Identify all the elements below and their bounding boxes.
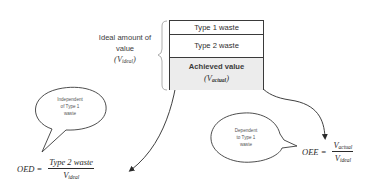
oee-numerator: Vactual (332, 140, 353, 152)
oee-num-sub: actual (339, 144, 353, 150)
oed-numerator: Type 2 waste (48, 157, 94, 169)
actual-symbol-sub: actual (212, 77, 226, 83)
oee-lhs: OEE = (302, 147, 326, 157)
oed-fraction: Type 2 waste Videal (48, 157, 94, 180)
achieved-value-symbol: (Vactual) (170, 73, 263, 86)
ideal-symbol-sub: ideal (122, 58, 133, 64)
oee-formula: OEE = Vactual Videal (302, 140, 353, 163)
row-type1-waste: Type 1 waste (170, 21, 263, 35)
bubble-left-text: Independent of Type 1 waste (44, 96, 96, 117)
row-achieved-value: Achieved value (Vactual) (170, 58, 263, 90)
bubble-left-line3: waste (44, 110, 96, 117)
oed-lhs: OED = (17, 164, 42, 174)
ideal-label-line2: value (84, 43, 166, 54)
bubble-right-line1: Dependent (220, 127, 272, 134)
oee-den-sub: ideal (340, 157, 351, 163)
bubble-right-text: Dependent to Type 1 waste (220, 127, 272, 148)
oee-denominator: Videal (332, 152, 353, 163)
bubble-right-line3: waste (220, 141, 272, 148)
type2-waste-label: Type 2 waste (194, 41, 239, 50)
oee-fraction: Vactual Videal (332, 140, 353, 163)
value-breakdown-box: Type 1 waste Type 2 waste Achieved value… (169, 20, 264, 90)
oed-den-sub: ideal (68, 174, 79, 180)
bubble-left-line2: of Type 1 (44, 103, 96, 110)
bubble-left-line1: Independent (44, 96, 96, 103)
oed-formula: OED = Type 2 waste Videal (17, 157, 94, 180)
achieved-value-label: Achieved value (170, 61, 263, 72)
oed-denominator: Videal (48, 169, 94, 180)
ideal-label-line1: Ideal amount of (84, 32, 166, 43)
ideal-value-label: Ideal amount of value (Videal) (84, 32, 166, 67)
type1-waste-label: Type 1 waste (194, 23, 239, 32)
bubble-right-line2: to Type 1 (220, 134, 272, 141)
row-type2-waste: Type 2 waste (170, 35, 263, 58)
ideal-symbol: (Videal) (84, 54, 166, 67)
